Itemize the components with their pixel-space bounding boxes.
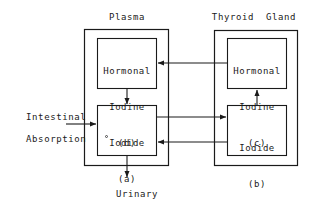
box-hormonal-iodine-d-line1: Hormonal [97,65,157,77]
box-iodide-a-line1: Iodide [97,137,157,149]
plasma-compartment-label: Plasma [84,12,170,23]
iodide-a-marker-dot [105,135,108,138]
intestinal-absorption-label: Intestinal Absorption [2,101,82,156]
urinary-excretion-line1: Urinary [116,189,158,199]
box-hormonal-iodine-c-line1: Hormonal [227,65,287,77]
iodine-metabolism-diagram: Plasma Thyroid Gland Hormonal Iodine (d)… [0,0,310,206]
box-iodide-b-label: Iodide (b) [227,118,287,206]
box-hormonal-iodine-d-line2: Iodine [97,101,157,113]
thyroid-compartment-label: Thyroid Gland [206,12,302,23]
intestinal-absorption-line1: Intestinal [26,112,86,122]
urinary-excretion-label: Urinary Excretion [80,178,170,206]
box-hormonal-iodine-c-line2: Iodine [227,101,287,113]
intestinal-absorption-line2: Absorption [26,134,86,144]
box-iodide-b-line1: Iodide [227,142,287,154]
box-iodide-b-line2: (b) [227,178,287,190]
